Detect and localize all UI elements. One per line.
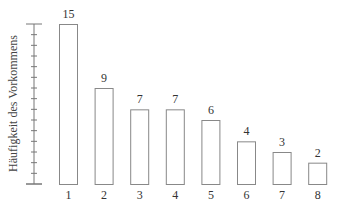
bar-value-label: 9 <box>101 71 107 85</box>
bar-value-label: 7 <box>137 92 143 106</box>
x-tick-label: 7 <box>279 188 285 202</box>
x-tick-label: 8 <box>315 188 321 202</box>
bar <box>95 89 113 185</box>
bar-value-label: 7 <box>172 92 178 106</box>
bar-value-label: 6 <box>208 103 214 117</box>
x-tick-label: 6 <box>244 188 250 202</box>
bar <box>166 110 184 185</box>
bar <box>202 121 220 185</box>
bar-value-label: 4 <box>244 124 250 138</box>
bar-value-label: 3 <box>279 135 285 149</box>
x-tick-label: 1 <box>66 188 72 202</box>
x-tick-label: 2 <box>101 188 107 202</box>
bar <box>309 163 327 184</box>
bar <box>131 110 149 185</box>
chart-canvas: 15192737465463728 <box>0 0 337 204</box>
x-tick-label: 3 <box>137 188 143 202</box>
bar <box>238 142 256 185</box>
bar-value-label: 15 <box>63 7 75 21</box>
bar-value-label: 2 <box>315 146 321 160</box>
bar <box>60 25 78 185</box>
x-tick-label: 5 <box>208 188 214 202</box>
bar <box>273 153 291 185</box>
x-tick-label: 4 <box>172 188 178 202</box>
